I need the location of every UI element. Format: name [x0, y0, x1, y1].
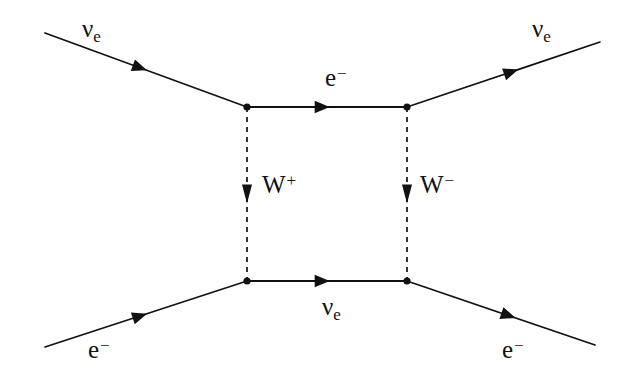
label-outgoing-electron-superscript: − [514, 336, 524, 355]
internal-neutrino-line-arrowhead [315, 275, 330, 287]
outgoing-neutrino-line-arrowhead [502, 68, 518, 80]
label-outgoing-electron: e− [502, 337, 524, 362]
label-internal-electron-superscript: − [337, 64, 347, 83]
label-internal-neutrino: νe [322, 294, 341, 323]
label-w-minus-symbol: W [420, 171, 444, 198]
label-w-plus-superscript: + [287, 171, 297, 190]
feynman-diagram-canvas: νe νe e− e− e− νe W+ W− [0, 0, 626, 380]
label-incoming-electron-symbol: e [88, 336, 99, 363]
label-outgoing-neutrino-symbol: ν [532, 15, 543, 42]
arrowheads-group [131, 59, 519, 324]
label-w-minus: W− [420, 172, 454, 197]
vertex-bottom-left [243, 277, 250, 284]
label-w-plus: W+ [262, 172, 296, 197]
label-incoming-neutrino: νe [82, 16, 101, 45]
label-incoming-electron-superscript: − [100, 336, 110, 355]
label-w-plus-symbol: W [262, 171, 286, 198]
vertex-top-right [403, 103, 410, 110]
outgoing-electron-line [407, 281, 595, 345]
label-internal-electron: e− [325, 65, 347, 90]
incoming-electron-line-arrowhead [131, 312, 147, 324]
internal-electron-line-arrowhead [315, 101, 330, 113]
label-internal-electron-symbol: e [325, 64, 336, 91]
label-outgoing-neutrino-subscript: e [543, 27, 551, 46]
label-incoming-neutrino-subscript: e [93, 27, 101, 46]
w-plus-propagator-arrowhead [242, 185, 252, 204]
vertex-top-left [243, 103, 250, 110]
feynman-diagram-svg [0, 0, 626, 380]
label-internal-neutrino-symbol: ν [322, 293, 333, 320]
label-incoming-electron: e− [88, 337, 110, 362]
label-outgoing-neutrino: νe [532, 16, 551, 45]
label-incoming-neutrino-symbol: ν [82, 15, 93, 42]
label-internal-neutrino-subscript: e [333, 305, 341, 324]
w-minus-propagator-arrowhead [402, 185, 412, 204]
label-outgoing-electron-symbol: e [502, 336, 513, 363]
outgoing-electron-line-arrowhead [499, 307, 515, 319]
outgoing-neutrino-line [407, 42, 600, 107]
incoming-neutrino-line-arrowhead [131, 59, 147, 71]
vertex-bottom-right [403, 277, 410, 284]
label-w-minus-superscript: − [445, 171, 455, 190]
